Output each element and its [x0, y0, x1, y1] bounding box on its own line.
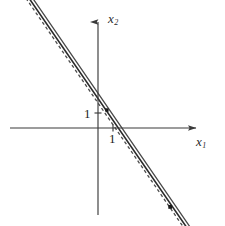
- line-graph-figure: x2 x1 1 1: [0, 0, 225, 226]
- line-2-solid-lower: [10, 0, 205, 226]
- x-axis-label: x1: [196, 135, 206, 148]
- plot-canvas: [0, 0, 225, 226]
- line-3-dashed: [10, 0, 205, 226]
- x-axis-label-subscript: 1: [202, 141, 206, 150]
- x-axis-tick-label-1: 1: [109, 132, 116, 145]
- line-1-solid-upper: [10, 0, 205, 226]
- y-axis-label: x2: [108, 12, 118, 25]
- y-axis-label-base: x: [108, 11, 114, 26]
- marker-point-upper: [105, 108, 108, 111]
- y-axis-label-subscript: 2: [114, 18, 118, 27]
- marker-point-lower: [168, 205, 172, 209]
- y-axis-tick-label-1: 1: [84, 107, 91, 120]
- x-axis-label-base: x: [196, 134, 202, 149]
- data-lines: [10, 0, 205, 226]
